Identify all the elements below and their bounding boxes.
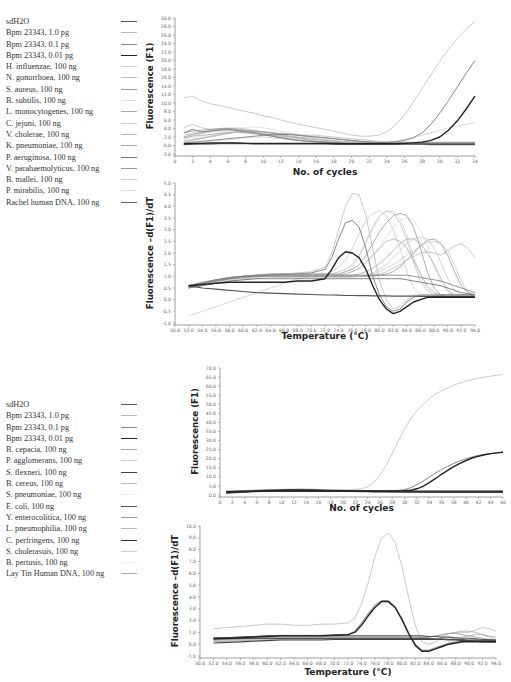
y-tick-label: 45.0	[206, 411, 216, 416]
y-tick-label: 0.5	[164, 286, 171, 291]
series-line	[214, 602, 497, 652]
x-tick-label: 34	[472, 159, 478, 164]
y-tick-label: 4.5	[164, 192, 171, 197]
y-tick-label: -0.5	[162, 309, 171, 314]
y-tick-label: 4.0	[189, 595, 196, 600]
legend-label: S. flexneri, 100 ng	[6, 467, 67, 478]
legend-swatch	[121, 415, 137, 416]
x-tick-label: 84.0	[424, 661, 434, 666]
series-line	[226, 374, 503, 491]
x-tick-label: 68.0	[316, 661, 326, 666]
legend-item: B. mallei, 100 ng	[6, 174, 134, 185]
x-tick-label: 62.0	[276, 661, 286, 666]
x-tick-label: 12	[278, 159, 284, 164]
x-tick-label: 90.0	[443, 328, 453, 333]
legend-label: B. subtilis, 100 ng	[6, 95, 66, 106]
series-line	[189, 239, 475, 295]
legend-item: Bpm 23343, 0.1 pg	[6, 39, 134, 50]
y-tick-label: 2.0	[164, 135, 171, 140]
legend-item: E. coli, 100 ng	[6, 501, 134, 512]
x-tick-label: 14	[296, 159, 302, 164]
series-line	[226, 452, 503, 492]
y-tick-label: 0.0	[164, 143, 171, 148]
y-tick-label: 20.0	[206, 456, 216, 461]
legend-label: C. jejuni, 100 ng	[6, 118, 61, 129]
y-axis-title: Fluorescence –d(F1)/dT	[170, 535, 180, 647]
y-tick-label: 15.0	[206, 465, 216, 470]
legend-label: Rachel human DNA, 100 ng	[6, 197, 99, 208]
legend-label: S. cholerasuis, 100 ng	[6, 546, 78, 557]
legend-label: L. monocytogenes, 100 ng	[6, 106, 93, 117]
x-tick-label: 16	[316, 500, 322, 505]
legend-label: Bpm 23343, 0.1 pg	[6, 422, 69, 433]
y-tick-label: 70.0	[206, 366, 216, 371]
x-tick-label: 54.0	[222, 661, 232, 666]
legend-swatch	[121, 506, 137, 507]
x-tick-label: 18	[331, 159, 337, 164]
chart-a-melt: -1.0-0.50.00.51.01.52.02.53.03.54.04.55.…	[135, 177, 511, 343]
x-tick-label: 58.0	[224, 328, 234, 333]
x-tick-label: 32	[414, 500, 420, 505]
x-tick-label: 86.0	[415, 328, 425, 333]
x-tick-label: 94.0	[470, 328, 480, 333]
x-tick-label: 64.0	[289, 661, 299, 666]
y-tick-label: -1.0	[162, 321, 171, 326]
legend-label: B. cereus, 100 ng	[6, 478, 63, 489]
chart-b-melt: -1.00.01.02.03.04.05.06.07.08.09.010.050…	[160, 520, 511, 682]
x-tick-label: 30	[402, 500, 408, 505]
chart-a-amplification: -2.00.02.04.06.08.010.012.014.016.018.02…	[135, 8, 511, 180]
y-tick-label: 1.5	[164, 262, 171, 267]
series-line	[189, 244, 475, 287]
x-tick-label: 46	[500, 500, 506, 505]
x-tick-label: 72.0	[343, 661, 353, 666]
legend-swatch	[121, 427, 137, 428]
y-tick-label: 12.0	[161, 92, 171, 97]
x-tick-label: 86.0	[437, 661, 447, 666]
x-tick-label: 42	[475, 500, 481, 505]
x-tick-label: 56.0	[211, 328, 221, 333]
x-tick-label: 50.0	[170, 328, 180, 333]
legend-label: E. coli, 100 ng	[6, 501, 54, 512]
y-tick-label: 2.0	[189, 618, 196, 623]
legend-label: P. aeruginosa, 100 ng	[6, 152, 76, 163]
legend-item: N. gonorrhoea, 100 ng	[6, 72, 134, 83]
series-line	[189, 237, 475, 298]
legend-label: B. pertusis, 100 ng	[6, 557, 68, 568]
y-tick-label: 9.0	[189, 535, 196, 540]
legend-item: Bpm 23343, 0.01 pg	[6, 50, 134, 61]
legend-label: sdH2O	[6, 399, 29, 410]
legend-item: S. aureus, 100 ng	[6, 84, 134, 95]
y-tick-label: 4.0	[164, 204, 171, 209]
legend-label: P. mirabilis, 100 ng	[6, 185, 69, 196]
y-tick-label: 16.0	[161, 75, 171, 80]
x-tick-label: 44	[488, 500, 494, 505]
legend-item: H. influenzae, 100 ng	[6, 61, 134, 72]
y-tick-label: 2.0	[164, 251, 171, 256]
x-tick-label: 22	[366, 159, 372, 164]
legend-item: Y. enterocolitica, 100 ng	[6, 512, 134, 523]
legend-label: Y. enterocolitica, 100 ng	[6, 512, 86, 523]
y-tick-label: 14.0	[161, 84, 171, 89]
legend-label: Bpm 23343, 1.0 pg	[6, 410, 69, 421]
legend-label: P. agglomerans, 100 ng	[6, 455, 82, 466]
legend-label: B. mallei, 100 ng	[6, 174, 63, 185]
legend-swatch	[121, 449, 137, 450]
x-axis-title: No. of cycles	[293, 167, 358, 177]
x-tick-label: 6	[226, 159, 229, 164]
x-tick-label: 6	[255, 500, 258, 505]
series-line	[189, 279, 475, 295]
series-line	[189, 211, 475, 316]
y-tick-label: 30.0	[161, 16, 171, 21]
y-axis-title: Fluorescence –d(F1)/dT	[145, 197, 155, 309]
series-line	[226, 452, 503, 491]
legend-item: V. parahaemolyticus, 100 ng	[6, 163, 134, 174]
legend-label: Lay Tin Human DNA, 100 ng	[6, 568, 104, 579]
x-tick-label: 4	[243, 500, 246, 505]
legend-label: Bpm 23343, 0.1 pg	[6, 39, 69, 50]
legend-label: K. pneumoniae, 100 ng	[6, 140, 83, 151]
y-tick-label: 0.0	[209, 493, 216, 498]
legend-swatch	[121, 483, 137, 484]
y-tick-label: 26.0	[161, 33, 171, 38]
legend-item: B. cereus, 100 ng	[6, 478, 134, 489]
legend-item: sdH2O	[6, 16, 134, 27]
